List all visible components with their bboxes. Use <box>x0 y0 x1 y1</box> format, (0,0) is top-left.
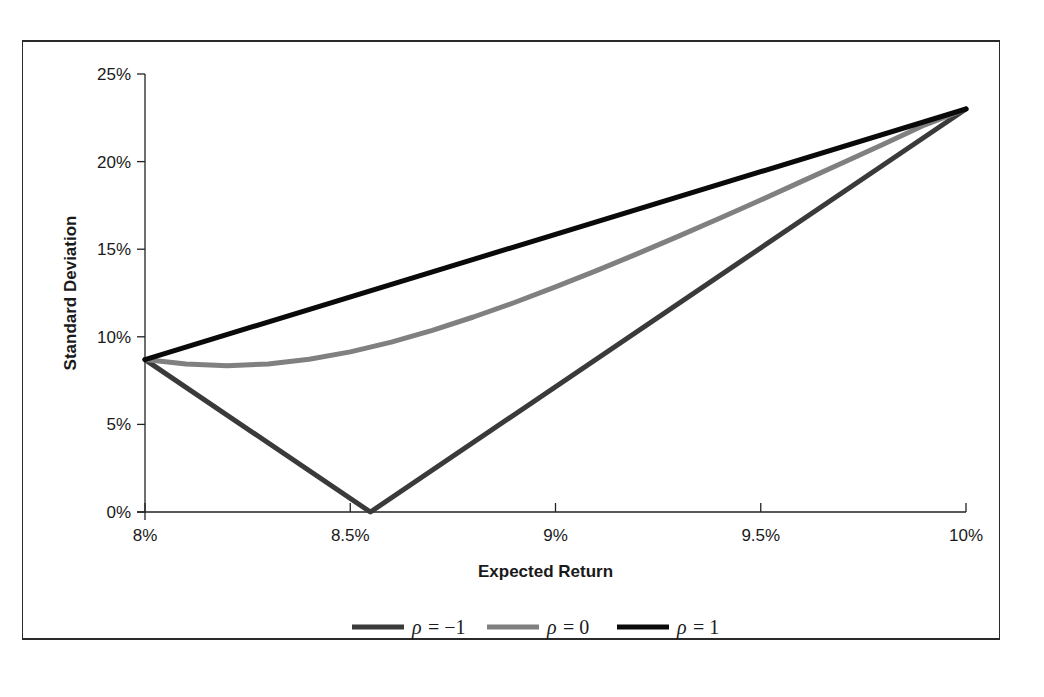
legend-symbol: ρ <box>546 616 557 639</box>
legend: ρ= −1ρ= 0ρ= 1 <box>352 616 719 639</box>
series-line-rho-neg1 <box>145 109 966 512</box>
x-tick-label: 8.5% <box>331 526 370 545</box>
y-tick-label: 20% <box>97 153 131 172</box>
series-layer <box>145 109 966 512</box>
x-axis-title: Expected Return <box>478 562 613 581</box>
axes: 0%5%10%15%20%25% 8%8.5%9%9.5%10% <box>97 65 983 545</box>
legend-symbol: ρ <box>676 616 687 639</box>
legend-item: ρ= −1 <box>352 616 466 639</box>
y-tick-label: 0% <box>106 503 131 522</box>
legend-label: = 0 <box>563 616 589 638</box>
y-axis-title: Standard Deviation <box>61 216 80 371</box>
legend-label: = −1 <box>428 616 466 638</box>
x-tick-label: 8% <box>133 526 158 545</box>
legend-symbol: ρ <box>411 616 422 639</box>
y-tick-label: 5% <box>106 415 131 434</box>
legend-label: = 1 <box>693 616 719 638</box>
x-ticks: 8%8.5%9%9.5%10% <box>133 503 983 545</box>
chart: 0%5%10%15%20%25% 8%8.5%9%9.5%10% Expecte… <box>0 0 1044 697</box>
legend-item: ρ= 0 <box>487 616 589 639</box>
legend-item: ρ= 1 <box>617 616 719 639</box>
y-tick-label: 15% <box>97 240 131 259</box>
x-tick-label: 10% <box>949 526 983 545</box>
series-line-rho-1 <box>145 109 966 360</box>
y-ticks: 0%5%10%15%20%25% <box>97 65 145 522</box>
y-tick-label: 10% <box>97 328 131 347</box>
x-tick-label: 9.5% <box>741 526 780 545</box>
y-tick-label: 25% <box>97 65 131 84</box>
x-tick-label: 9% <box>543 526 568 545</box>
